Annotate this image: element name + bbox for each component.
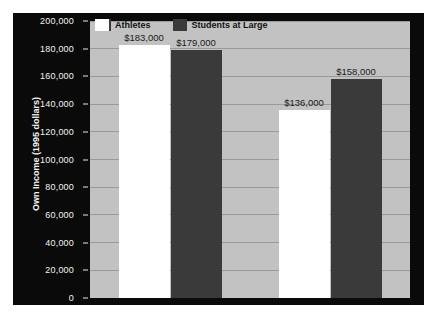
legend-entry: Athletes [95,19,151,31]
legend-entry: Students at Large [173,19,268,31]
y-axis-tick-label: 140,000 [40,99,74,109]
y-axis-tick-label: 180,000 [40,44,74,54]
chart-figure: Own Income (1995 dollars) AthletesStuden… [13,13,424,305]
chart-legend: AthletesStudents at Large [95,19,268,31]
x-axis-tick-label: 1951 [159,304,181,305]
data-label: $136,000 [284,97,324,108]
bar [119,45,170,298]
y-axis-tick-label: 40,000 [45,238,74,248]
y-axis-tick-mark [83,159,88,160]
y-axis-tick-label: 60,000 [45,210,74,220]
y-axis-tick-mark [83,187,88,188]
legend-label: Students at Large [192,20,268,30]
y-axis-tick-mark [83,76,88,77]
legend-label: Athletes [115,20,151,30]
bar [171,50,222,298]
plot-area [90,21,410,298]
data-label: $183,000 [124,32,164,43]
bar [279,110,330,298]
y-axis-tick-mark [83,131,88,132]
y-axis-tick-mark [83,104,88,105]
y-axis-tick-label: 200,000 [40,16,74,26]
y-axis-tick-mark [83,298,88,299]
data-label: $158,000 [336,66,376,77]
y-axis-tick-label: 0 [69,293,74,303]
y-axis-tick-label: 100,000 [40,155,74,165]
y-axis-tick-label: 80,000 [45,182,74,192]
bar [331,79,382,298]
x-axis-tick-label: 1976 [319,304,341,305]
y-axis-tick-mark [83,214,88,215]
y-axis-tick-label: 20,000 [45,265,74,275]
legend-swatch [173,19,187,31]
y-axis-tick-label: 160,000 [40,71,74,81]
legend-swatch [95,19,111,31]
y-axis-tick-mark [83,48,88,49]
y-axis-tick-mark [83,270,88,271]
data-label: $179,000 [176,37,216,48]
y-axis-tick-mark [83,242,88,243]
y-axis-tick-mark [83,21,88,22]
y-axis-tick-label: 120,000 [40,127,74,137]
